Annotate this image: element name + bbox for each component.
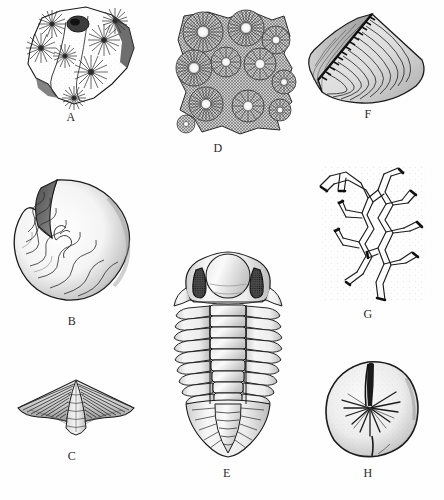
specimen-e-trilobite (166, 250, 290, 462)
specimen-d-favositid-coral-colony (172, 6, 300, 138)
fossil-plate: A (0, 0, 444, 500)
specimen-a-label: A (51, 110, 91, 125)
specimen-d-label: D (198, 141, 238, 156)
specimen-f-bivalve-shell (296, 8, 436, 112)
specimen-b-label: B (52, 314, 92, 329)
specimen-f-label: F (348, 107, 388, 122)
specimen-g-label: G (348, 307, 388, 322)
specimen-g-branching-bryozoan (312, 160, 436, 308)
specimen-h-rugose-coral-section (316, 358, 428, 466)
specimen-a-colonial-coral-slab (8, 2, 148, 114)
specimen-h-label: H (348, 466, 388, 481)
specimen-e-label: E (207, 466, 247, 481)
specimen-c-spiriferid-brachiopod (10, 372, 142, 448)
specimen-b-coiled-cephalopod (8, 168, 144, 310)
specimen-c-label: C (52, 449, 92, 464)
